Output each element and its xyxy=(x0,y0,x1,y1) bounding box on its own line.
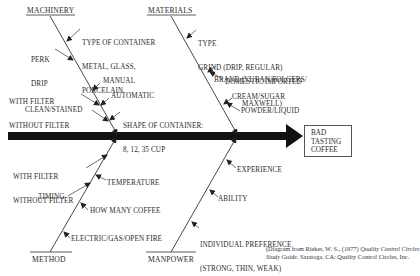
cause-ability: ABILITY xyxy=(218,195,247,203)
source-credit: (Diagram from Rieker, W. S., (1977) Qual… xyxy=(266,245,420,260)
cause-how-many-coffee: HOW MANY COFFEE xyxy=(90,207,161,215)
cause-type-of-container: TYPE OF CONTAINER METAL, GLASS, PORCELAI… xyxy=(82,23,155,103)
cause-filter-method: WITH FILTER WITHOUT FILTER xyxy=(13,157,73,213)
cause-powder-liquid: POWDER/LIQUID xyxy=(241,107,299,115)
cause-domestic-imported: DOMESTIC/IMPORTED xyxy=(225,78,302,86)
category-machinery: MACHINERY xyxy=(27,6,74,15)
effect-box: BAD TASTING COFFEE xyxy=(304,125,352,157)
category-manpower: MANPOWER xyxy=(148,255,194,264)
spine-arrowhead xyxy=(286,124,303,148)
cause-clean-stained: CLEAN/STAINED xyxy=(25,106,82,114)
cause-timing: TIMING xyxy=(38,193,65,201)
cause-experience: EXPERIENCE xyxy=(237,166,282,174)
cause-temperature: TEMPERATURE xyxy=(107,179,160,187)
cause-automatic: AUTOMATIC xyxy=(111,92,154,100)
cause-manual: MANUAL xyxy=(103,77,135,85)
cause-electric-gas-fire: ELECTRIC/GAS/OPEN FIRE xyxy=(71,235,162,243)
category-method: METHOD xyxy=(32,255,66,264)
cause-cream-sugar: CREAM/SUGAR xyxy=(232,93,285,101)
category-materials: MATERIALS xyxy=(148,6,192,15)
cause-shape-of-container: SHAPE OF CONTAINER: 8, 12, 35 CUP xyxy=(123,106,203,162)
